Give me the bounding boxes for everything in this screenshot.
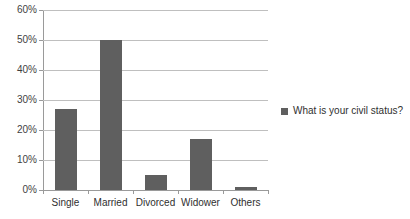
x-tick-label: Single <box>52 198 80 208</box>
x-tick-mark <box>178 190 179 194</box>
x-tick-mark <box>88 190 89 194</box>
y-tick-label: 20% <box>17 125 37 135</box>
bar-slot <box>43 10 88 190</box>
bar[interactable] <box>55 109 77 190</box>
bar-series <box>43 10 268 190</box>
x-tick-label: Married <box>94 198 128 208</box>
y-tick-label: 50% <box>17 35 37 45</box>
bar-slot <box>223 10 268 190</box>
plot-area: 0%10%20%30%40%50%60% SingleMarriedDivorc… <box>43 10 268 190</box>
legend-label: What is your civil status? <box>293 106 403 116</box>
chart-title-truncated <box>150 0 260 2</box>
bar-slot <box>133 10 178 190</box>
bar[interactable] <box>145 175 167 190</box>
bar[interactable] <box>190 139 212 190</box>
y-tick-label: 10% <box>17 155 37 165</box>
x-tick-mark <box>43 190 44 194</box>
x-tick-mark <box>223 190 224 194</box>
x-tick-label: Divorced <box>136 198 175 208</box>
x-tick-mark <box>133 190 134 194</box>
gridline <box>43 190 268 191</box>
legend-swatch-icon <box>281 108 288 115</box>
bar-slot <box>178 10 223 190</box>
x-tick-label: Widower <box>181 198 220 208</box>
y-tick-label: 40% <box>17 65 37 75</box>
bar-slot <box>88 10 133 190</box>
x-tick-label: Others <box>230 198 260 208</box>
chart-legend: What is your civil status? <box>281 106 403 116</box>
y-tick-label: 0% <box>23 185 37 195</box>
y-tick-label: 60% <box>17 5 37 15</box>
bar-chart: 0%10%20%30%40%50%60% SingleMarriedDivorc… <box>0 0 410 219</box>
y-tick-label: 30% <box>17 95 37 105</box>
bar[interactable] <box>235 187 257 190</box>
x-tick-mark <box>268 190 269 194</box>
bar[interactable] <box>100 40 122 190</box>
